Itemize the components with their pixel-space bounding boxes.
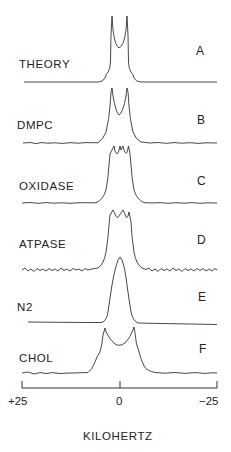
label-atpase: ATPASE <box>19 238 66 250</box>
letter-c: C <box>197 174 206 188</box>
letter-d: D <box>197 233 206 247</box>
label-n2: N2 <box>17 301 33 313</box>
spectrum-a-theory <box>24 16 217 82</box>
label-oxidase: OXIDASE <box>19 180 74 192</box>
x-axis-label: KILOHERTZ <box>83 430 153 442</box>
letter-f: F <box>199 342 206 356</box>
letter-a: A <box>196 44 204 58</box>
label-dmpc: DMPC <box>17 119 53 131</box>
spectrum-f-chol <box>22 327 217 374</box>
spectrum-c-oxidase <box>22 146 217 203</box>
label-theory: THEORY <box>19 58 70 70</box>
spectrum-e-n2 <box>28 257 217 325</box>
tick-label-zero: 0 <box>116 395 122 407</box>
letter-e: E <box>198 290 206 304</box>
letter-b: B <box>197 113 205 127</box>
spectrum-b-dmpc <box>23 88 217 144</box>
label-chol: CHOL <box>19 352 53 364</box>
tick-label-minus25: −25 <box>199 395 219 407</box>
tick-label-plus25: +25 <box>8 395 28 407</box>
x-axis <box>22 381 217 388</box>
